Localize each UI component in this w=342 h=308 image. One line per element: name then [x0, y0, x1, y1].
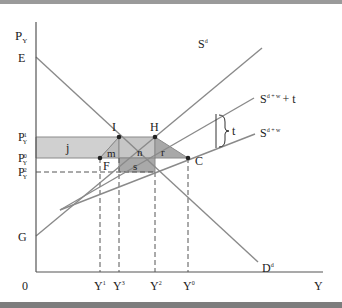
price-p0-label: P0Y — [18, 151, 28, 166]
guide-lines — [36, 158, 188, 272]
tariff-brace-icon — [219, 115, 229, 147]
tariff-diagram: PY Y 0 E G P1Y P0Y P2Y Y1 Y3 Y2 Y0 I H F… — [0, 0, 342, 308]
intercept-G: G — [18, 230, 27, 244]
price-p1-label: P1Y — [18, 130, 28, 145]
x-axis-label: Y — [314, 279, 323, 293]
point-C — [186, 156, 191, 161]
label-area-j: j — [65, 141, 69, 155]
label-supply-world: Sd + w — [260, 126, 281, 140]
quantity-y2-label: Y2 — [150, 279, 162, 293]
label-area-r: r — [161, 146, 165, 158]
label-supply-world-tariff: Sd + w+ t — [260, 92, 296, 106]
point-I — [117, 135, 122, 140]
intercept-E: E — [18, 51, 25, 65]
point-F — [98, 156, 103, 161]
label-area-n: n — [137, 146, 143, 158]
label-C: C — [195, 154, 203, 168]
label-I: I — [112, 120, 116, 134]
quantity-y1-label: Y1 — [94, 279, 106, 293]
area-r — [155, 137, 188, 158]
origin-label: 0 — [22, 279, 28, 293]
quantity-y0-label: Y0 — [183, 279, 195, 293]
y-axis-label: PY — [15, 28, 27, 45]
label-area-m: m — [107, 147, 116, 159]
label-area-s: s — [133, 160, 137, 172]
label-demand: Dd — [262, 261, 274, 275]
price-p2-label: P2Y — [18, 165, 28, 180]
label-supply-domestic: Sd — [198, 37, 208, 51]
label-F: F — [103, 159, 110, 173]
label-tariff: t — [232, 124, 236, 138]
quantity-y3-label: Y3 — [113, 279, 125, 293]
bottom-border — [0, 302, 342, 308]
point-H — [153, 135, 158, 140]
label-H: H — [150, 120, 159, 134]
